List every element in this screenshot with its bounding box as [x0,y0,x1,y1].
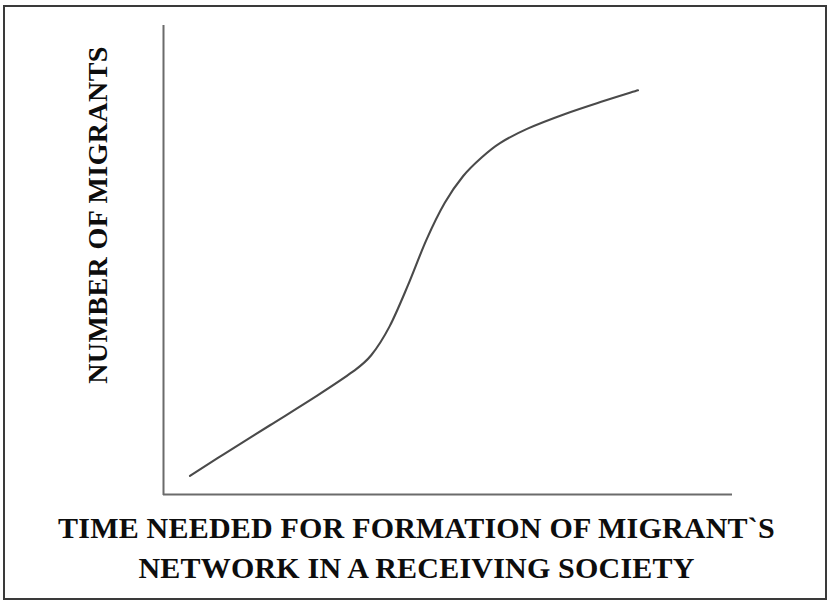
x-axis-title-line-1: TIME NEEDED FOR FORMATION OF MIGRANT`S [20,508,813,548]
y-axis-title: NUMBER OF MIGRANTS [78,0,118,470]
x-axis-title: TIME NEEDED FOR FORMATION OF MIGRANT`S N… [20,508,813,587]
y-axis-title-text: NUMBER OF MIGRANTS [82,46,114,384]
plot-area [0,0,833,510]
chart-svg [0,0,833,510]
data-curve-line [190,90,638,476]
figure-container: NUMBER OF MIGRANTS TIME NEEDED FOR FORMA… [0,0,833,608]
x-axis-title-line-2: NETWORK IN A RECEIVING SOCIETY [20,548,813,588]
